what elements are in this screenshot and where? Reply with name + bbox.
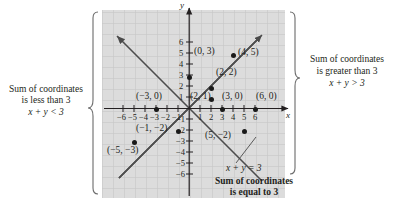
data-point [242,129,247,134]
x-tick-5: 5 [242,113,246,122]
y-tick--5: −5 [176,159,185,168]
right-annotation-line1: Sum of coordinates [302,55,392,65]
y-tick-5: 5 [179,49,183,58]
bottom-annotation-line1: Sum of coordinates [200,177,308,187]
x-tick-3: 3 [220,113,224,122]
point-label--3-0: (−3, 0) [136,92,162,102]
x-tick-4: 4 [231,113,235,122]
y-axis [186,8,193,196]
x-tick-1: 1 [198,113,202,122]
data-point [220,107,225,112]
leader-line [236,137,256,163]
point-label-5--2: (5, −2) [205,131,231,141]
y-tick--6: −6 [176,170,185,179]
point-label-2-2: (2, 2) [216,68,237,78]
x-tick--2: −2 [161,113,170,122]
point-label-2-1: (2, 1) [190,92,211,102]
x-tick-2: 2 [209,113,213,122]
x-tick--6: −6 [117,113,126,122]
left-annotation-line1: Sum of coordinates [2,85,90,95]
right-annotation-formula: x + y > 3 [302,79,392,89]
point-label-0-3: (0, 3) [194,47,215,57]
data-point [209,86,214,91]
data-point [231,53,236,58]
data-point [154,107,159,112]
data-point [187,75,192,80]
x-axis [104,105,288,112]
point-label-6-0: (6, 0) [256,92,277,102]
y-tick-3: 3 [179,71,183,80]
y-tick--3: −3 [176,137,185,146]
left-annotation-line2: is less than 3 [2,96,90,106]
data-point [132,140,137,145]
y-tick-6: 6 [179,38,183,47]
data-point [176,129,181,134]
data-point [253,107,258,112]
figure-container: x y −6 −5 −4 −3 −2 −1 1 2 3 4 5 6 6 5 4 … [0,0,393,206]
y-axis-label: y [180,1,184,10]
point-label-3-0: (3, 0) [222,92,243,102]
x-axis-label: x [286,111,290,120]
x-tick-6: 6 [253,113,257,122]
y-tick-1: 1 [179,93,183,102]
point-label--5--3: (−5, −3) [107,146,138,156]
x-tick--3: −3 [150,113,159,122]
point-label-4-5: (4, 5) [238,48,259,58]
line-equation-label: x + y = 3 [226,164,262,174]
y-tick--1: −1 [176,115,185,124]
y-tick-4: 4 [179,60,183,69]
x-tick--5: −5 [128,113,137,122]
left-annotation-formula: x + y < 3 [2,108,90,118]
y-tick-2: 2 [179,82,183,91]
point-label--1--2: (−1, −2) [136,124,167,134]
bottom-annotation-line2: is equal to 3 [200,188,308,198]
y-tick--4: −4 [176,148,185,157]
right-annotation-line2: is greater than 3 [302,67,392,77]
right-brace [290,12,300,174]
x-tick--4: −4 [139,113,148,122]
